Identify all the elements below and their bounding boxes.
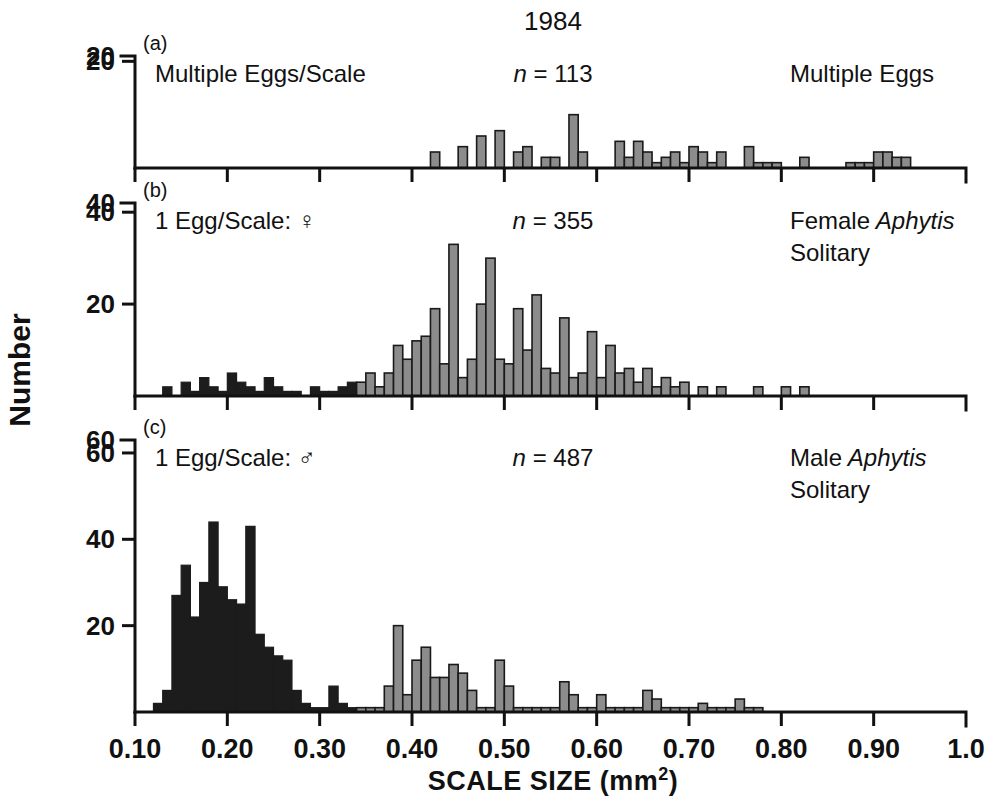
x-tick-label: 0.70 — [663, 734, 716, 764]
bar — [744, 147, 753, 168]
bar — [329, 686, 338, 712]
bar — [634, 382, 643, 396]
bar — [578, 152, 587, 168]
bar — [421, 336, 430, 396]
bar — [883, 152, 892, 168]
bar — [560, 682, 569, 712]
panel-c-letter: (c) — [143, 416, 166, 438]
bar — [901, 157, 910, 168]
panel-a-letter: (a) — [143, 32, 167, 54]
bar — [597, 695, 606, 712]
bar — [181, 382, 190, 396]
bar — [421, 647, 430, 712]
bar — [892, 157, 901, 168]
bar — [246, 526, 255, 712]
panel-b-right-label-1: Female — [790, 207, 870, 234]
bar — [283, 660, 292, 712]
bar — [477, 304, 486, 396]
species-name: Aphytis — [842, 444, 926, 471]
bar — [403, 359, 412, 396]
bar — [800, 157, 809, 168]
x-tick-label: 0.40 — [386, 734, 439, 764]
bar — [661, 378, 670, 396]
bar — [227, 600, 236, 712]
bar — [606, 345, 615, 396]
bar — [357, 382, 366, 396]
panel-c-right-label-1: Male — [790, 444, 842, 471]
bar — [643, 368, 652, 396]
bar — [514, 152, 523, 168]
bar — [384, 686, 393, 712]
bar — [403, 695, 412, 712]
x-tick-label: 0.80 — [755, 734, 808, 764]
y-tick-label: 40 — [86, 524, 115, 554]
x-tick-label: 0.30 — [293, 734, 346, 764]
panel-a-left-label: Multiple Eggs/Scale — [155, 60, 366, 87]
x-tick-label: 0.10 — [109, 734, 162, 764]
bar — [615, 373, 624, 396]
panel-c-left-label: 1 Egg/Scale: ♂ — [155, 444, 316, 471]
bar — [551, 157, 560, 168]
y-axis-max-label: 40 — [86, 188, 115, 218]
panels-group: 2020(a)Multiple Eggs/Scalen = 113Multipl… — [86, 32, 966, 726]
bar — [255, 634, 264, 712]
bar — [264, 647, 273, 712]
bar — [504, 364, 513, 396]
x-axis-title-close: ) — [669, 766, 679, 796]
bar — [218, 587, 227, 712]
bar — [495, 660, 504, 712]
n-symbol: n — [513, 207, 526, 234]
bar — [394, 626, 403, 712]
bar — [597, 378, 606, 396]
bar — [643, 152, 652, 168]
bar — [394, 345, 403, 396]
panel-b-x-axis — [135, 396, 966, 410]
bar — [209, 522, 218, 712]
bar — [874, 152, 883, 168]
n-value: = 113 — [527, 60, 593, 87]
x-tick-label: 0.50 — [478, 734, 531, 764]
bar — [643, 690, 652, 712]
bar — [495, 131, 504, 168]
bar — [541, 368, 550, 396]
x-tick-labels: 0.100.200.300.400.500.600.700.800.901.0 — [109, 734, 985, 764]
panel-a-y-axis — [121, 56, 135, 168]
panel-b-right-label: Female Aphytis — [790, 207, 955, 234]
panel-a-x-axis — [135, 168, 966, 182]
y-tick-label: 20 — [86, 289, 115, 319]
bar — [671, 152, 680, 168]
bar — [274, 656, 283, 712]
figure-container: 1984 Number SCALE SIZE (mm2) 2020(a)Mult… — [0, 0, 999, 810]
bar — [449, 244, 458, 396]
x-tick-label: 0.20 — [201, 734, 254, 764]
panel-b-sample-size: n = 355 — [513, 207, 594, 234]
y-tick-label: 20 — [86, 611, 115, 641]
bar — [523, 350, 532, 396]
bar — [680, 382, 689, 396]
panel-b-right-label-2: Solitary — [790, 239, 870, 266]
bar — [264, 378, 273, 396]
panel-c-y-axis — [121, 440, 135, 712]
bar — [615, 141, 624, 168]
panel-c-right-label-2: Solitary — [790, 476, 870, 503]
y-axis-label: Number — [3, 313, 36, 427]
bar — [163, 690, 172, 712]
bar — [569, 378, 578, 396]
bar — [190, 617, 199, 712]
bar — [237, 382, 246, 396]
bar — [523, 147, 532, 168]
bar — [551, 373, 560, 396]
panel-b: 204040(b)1 Egg/Scale: ♀n = 355Female Aph… — [86, 179, 966, 410]
bar — [430, 309, 439, 396]
bar — [237, 604, 246, 712]
n-symbol: n — [514, 60, 527, 87]
panel-c-bars — [153, 522, 762, 712]
bar — [347, 382, 356, 396]
bar — [440, 677, 449, 712]
bar — [569, 115, 578, 168]
bar — [560, 318, 569, 396]
bar — [477, 136, 486, 168]
bar — [698, 152, 707, 168]
bar — [412, 341, 421, 396]
bar — [384, 373, 393, 396]
